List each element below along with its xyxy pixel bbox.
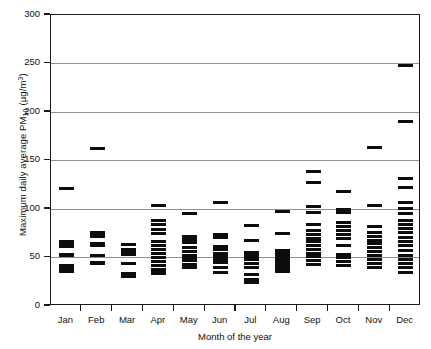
data-point-jul-7	[244, 266, 259, 269]
data-point-sep-2	[306, 205, 321, 208]
data-point-sep-13	[306, 259, 321, 262]
data-point-aug-9	[275, 270, 290, 273]
data-point-may-0	[182, 212, 197, 215]
y-tick-label-50: 50	[0, 250, 40, 261]
y-tick-100	[44, 207, 50, 208]
y-tick-50	[44, 256, 50, 257]
data-point-dec-8	[398, 223, 413, 226]
data-point-dec-19	[398, 271, 413, 274]
data-point-mar-3	[121, 253, 136, 256]
data-point-sep-8	[306, 240, 321, 243]
x-tick-5	[204, 305, 205, 311]
data-point-may-5	[182, 250, 197, 253]
x-tick-2	[111, 305, 112, 311]
data-point-apr-4	[151, 232, 166, 235]
data-point-dec-1	[398, 120, 413, 123]
data-point-dec-4	[398, 201, 413, 204]
data-point-sep-4	[306, 223, 321, 226]
data-point-dec-17	[398, 262, 413, 265]
gridline-50	[51, 257, 419, 258]
data-point-aug-0	[275, 210, 290, 213]
data-point-oct-6	[336, 233, 351, 236]
data-point-sep-0	[306, 170, 321, 173]
data-point-dec-11	[398, 236, 413, 239]
data-point-nov-10	[367, 258, 382, 261]
data-point-apr-1	[151, 219, 166, 222]
x-tick-label-dec: Dec	[385, 314, 425, 325]
data-point-oct-5	[336, 229, 351, 232]
data-point-jan-3	[59, 245, 74, 248]
y-tick-label-100: 100	[0, 202, 40, 213]
y-tick-label-300: 300	[0, 8, 40, 19]
data-point-oct-4	[336, 225, 351, 228]
data-point-feb-5	[90, 244, 105, 247]
data-point-dec-10	[398, 231, 413, 234]
data-point-dec-15	[398, 254, 413, 257]
data-point-nov-12	[367, 266, 382, 269]
y-tick-300	[44, 13, 50, 14]
data-point-feb-3	[90, 235, 105, 238]
data-point-oct-11	[336, 260, 351, 263]
data-point-feb-8	[90, 262, 105, 265]
data-point-sep-3	[306, 211, 321, 214]
data-point-sep-9	[306, 244, 321, 247]
data-point-sep-1	[306, 181, 321, 184]
data-point-mar-0	[121, 243, 136, 246]
data-point-oct-8	[336, 244, 351, 247]
gridline-100	[51, 209, 419, 210]
y-tick-150	[44, 159, 50, 160]
data-point-jul-0	[244, 224, 259, 227]
data-point-apr-7	[151, 248, 166, 251]
data-point-dec-18	[398, 266, 413, 269]
data-point-nov-7	[367, 246, 382, 249]
plot-area	[50, 14, 420, 305]
data-point-apr-9	[151, 256, 166, 259]
x-tick-4	[173, 305, 174, 311]
data-point-dec-6	[398, 212, 413, 215]
data-point-mar-7	[121, 275, 136, 278]
x-tick-11	[389, 305, 390, 311]
data-point-may-4	[182, 246, 197, 249]
data-point-dec-12	[398, 240, 413, 243]
data-point-sep-6	[306, 233, 321, 236]
y-tick-label-250: 250	[0, 56, 40, 67]
y-tick-200	[44, 110, 50, 111]
x-tick-8	[296, 305, 297, 311]
data-point-apr-8	[151, 252, 166, 255]
y-tick-0	[44, 304, 50, 305]
data-point-may-2	[182, 238, 197, 241]
gridline-200	[51, 112, 419, 113]
data-point-may-3	[182, 241, 197, 244]
x-axis-title: Month of the year	[50, 331, 420, 342]
data-point-sep-14	[306, 263, 321, 266]
data-point-oct-3	[336, 221, 351, 224]
data-point-nov-4	[367, 235, 382, 238]
data-point-jun-4	[213, 248, 228, 251]
pm10-scatter-chart: Maximum daily average PM10 (µg/m3) Month…	[0, 0, 431, 349]
data-point-jan-9	[59, 270, 74, 273]
data-point-oct-2	[336, 211, 351, 214]
data-point-nov-6	[367, 242, 382, 245]
data-point-jun-10	[213, 271, 228, 274]
data-point-apr-5	[151, 240, 166, 243]
data-point-nov-0	[367, 146, 382, 149]
data-point-apr-0	[151, 204, 166, 207]
data-point-dec-5	[398, 207, 413, 210]
y-tick-label-150: 150	[0, 153, 40, 164]
data-point-jul-1	[244, 239, 259, 242]
y-tick-label-0: 0	[0, 299, 40, 310]
data-point-nov-3	[367, 231, 382, 234]
data-point-mar-4	[121, 262, 136, 265]
data-point-nov-8	[367, 250, 382, 253]
data-point-sep-10	[306, 248, 321, 251]
data-point-may-8	[182, 259, 197, 262]
x-tick-9	[327, 305, 328, 311]
data-point-dec-14	[398, 249, 413, 252]
gridline-250	[51, 63, 419, 64]
data-point-jun-2	[213, 236, 228, 239]
data-point-dec-0	[398, 64, 413, 67]
y-tick-250	[44, 62, 50, 63]
data-point-apr-3	[151, 228, 166, 231]
data-point-oct-0	[336, 190, 351, 193]
x-tick-1	[80, 305, 81, 311]
